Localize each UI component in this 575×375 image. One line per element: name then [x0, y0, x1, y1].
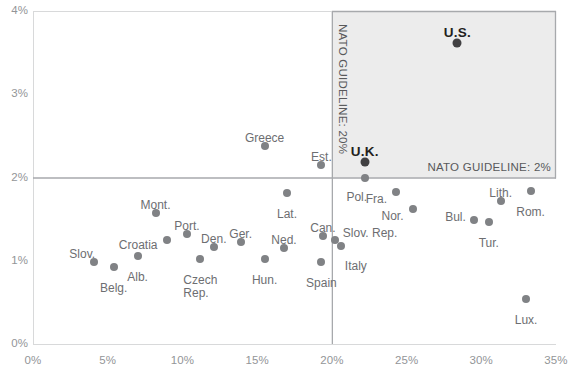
data-point-marker[interactable]	[237, 238, 245, 246]
data-point-marker[interactable]	[485, 218, 493, 226]
data-point-marker[interactable]	[392, 188, 400, 196]
data-point-marker[interactable]	[319, 232, 327, 240]
scatter-plot: 0%1%2%3%4%0%5%10%15%20%25%30%35% Slov.Be…	[0, 0, 575, 375]
data-point-marker[interactable]	[210, 243, 218, 251]
data-point-marker[interactable]	[261, 255, 269, 263]
data-point-marker[interactable]	[183, 230, 191, 238]
data-point-marker[interactable]	[522, 295, 530, 303]
data-point-marker[interactable]	[497, 197, 505, 205]
data-point-marker[interactable]	[337, 242, 345, 250]
data-point-marker[interactable]	[110, 263, 118, 271]
data-point-marker[interactable]	[152, 209, 160, 217]
data-point-marker[interactable]	[90, 258, 98, 266]
data-point-marker[interactable]	[361, 174, 369, 182]
data-point-marker[interactable]	[409, 205, 417, 213]
data-point-marker[interactable]	[360, 157, 369, 166]
data-point-marker[interactable]	[283, 189, 291, 197]
data-point-marker[interactable]	[134, 252, 142, 260]
nato-quadrant-shading	[332, 11, 556, 178]
data-point-marker[interactable]	[163, 236, 171, 244]
data-point-marker[interactable]	[453, 38, 462, 47]
data-point-marker[interactable]	[317, 161, 325, 169]
data-point-marker[interactable]	[280, 244, 288, 252]
plot-canvas	[0, 0, 575, 375]
data-point-marker[interactable]	[317, 258, 325, 266]
data-point-marker[interactable]	[261, 142, 269, 150]
data-point-marker[interactable]	[527, 187, 535, 195]
data-point-marker[interactable]	[470, 216, 478, 224]
data-point-marker[interactable]	[196, 255, 204, 263]
